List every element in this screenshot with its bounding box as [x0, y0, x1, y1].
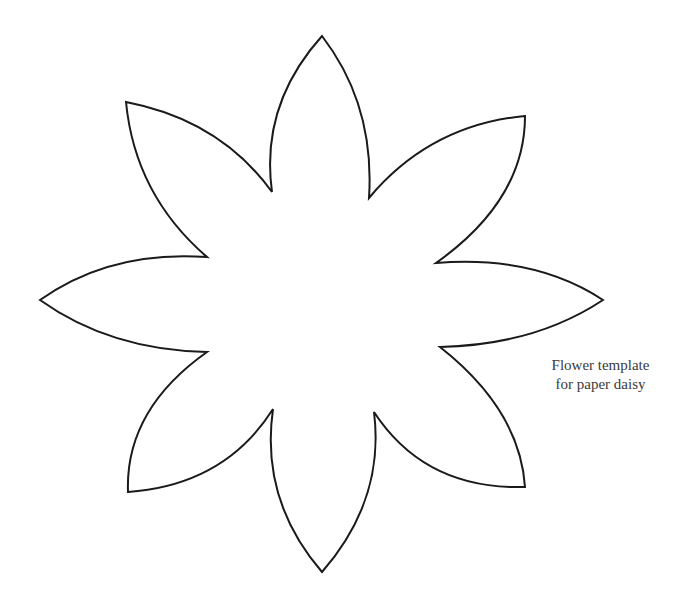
caption-line-1: Flower template	[528, 356, 673, 375]
template-caption: Flower template for paper daisy	[528, 356, 673, 394]
daisy-petals-outline	[40, 36, 603, 572]
flower-template-outline	[0, 0, 682, 608]
caption-line-2: for paper daisy	[528, 375, 673, 394]
